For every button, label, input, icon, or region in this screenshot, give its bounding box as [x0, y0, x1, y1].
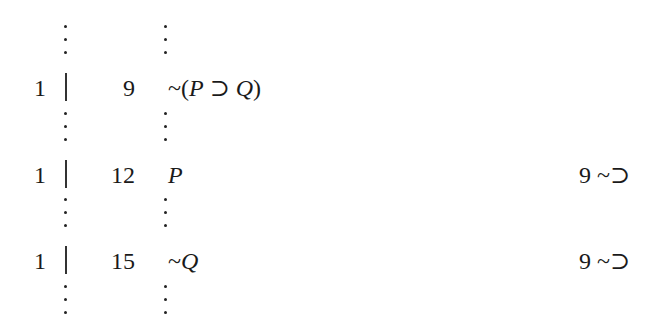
dependency-number: 1 [33, 73, 47, 103]
line-number: 12 [95, 160, 135, 190]
line-number: 9 [95, 73, 135, 103]
proof-line: 1 9 ~(P ⊃ Q) [0, 73, 663, 103]
proof-line: 1 12 P 9 ~⊃ [0, 160, 663, 190]
dependency-number: 1 [33, 246, 47, 276]
line-number: 15 [95, 246, 135, 276]
dependency-number: 1 [33, 160, 47, 190]
proof-line: 1 15 ~Q 9 ~⊃ [0, 246, 663, 276]
scope-bar [65, 73, 67, 101]
natural-deduction-proof: 1 9 ~(P ⊃ Q) 1 12 P 9 ~⊃ 1 15 ~Q 9 ~⊃ [0, 0, 663, 335]
scope-bar [65, 246, 67, 274]
formula: ~(P ⊃ Q) [168, 73, 261, 103]
justification: 9 ~⊃ [579, 160, 630, 190]
scope-bar [65, 160, 67, 188]
justification: 9 ~⊃ [579, 246, 630, 276]
formula: ~Q [168, 246, 198, 276]
formula: P [168, 160, 183, 190]
